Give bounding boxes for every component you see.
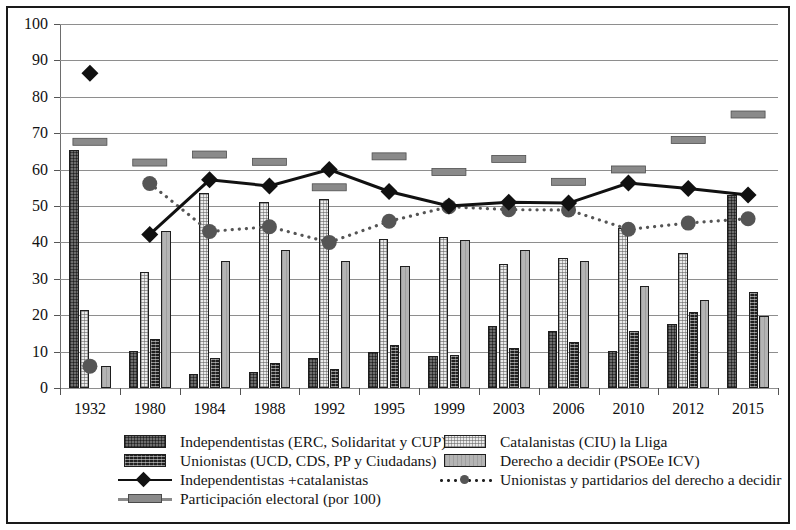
x-tick-mark: [359, 388, 360, 395]
legend-label: Participación electoral (por 100): [180, 491, 381, 507]
bar-indep-1980: [129, 351, 139, 388]
bar-decidir-2012: [700, 300, 710, 388]
x-tick-label-1995: 1995: [359, 400, 419, 418]
diamond-icon: [136, 471, 152, 487]
legend-swatch-independentistas: [124, 435, 166, 448]
x-tick-label-2015: 2015: [718, 400, 778, 418]
y-tick-label: 80: [2, 89, 48, 105]
legend-label: Catalanistas (CIU) la Lliga: [500, 434, 667, 450]
legend-label: Unionistas y partidarios del derecho a d…: [500, 472, 782, 488]
legend-item-left-2: Independentistas +catalanistas: [116, 470, 446, 489]
gridline: [60, 206, 778, 207]
x-tick-label-1984: 1984: [180, 400, 240, 418]
bar-catal-1984: [199, 193, 209, 388]
x-tick-label-2003: 2003: [479, 400, 539, 418]
y-tick-label: 100: [2, 16, 48, 32]
circle-icon: [460, 475, 469, 484]
x-tick-mark: [718, 388, 719, 395]
gridline: [60, 60, 778, 61]
bar-decidir-1980: [161, 231, 171, 388]
legend-column-left: Independentistas (ERC, Solidaritat y CUP…: [116, 432, 446, 508]
x-tick-mark: [299, 388, 300, 395]
x-tick-label-1999: 1999: [419, 400, 479, 418]
gridline: [60, 170, 778, 171]
bar-union-1988: [270, 363, 280, 388]
legend-bar-participacion: [128, 494, 162, 503]
bar-indep-1988: [249, 372, 259, 388]
bar-decidir-1995: [400, 266, 410, 388]
bar-indep-1995: [368, 352, 378, 388]
gridline: [60, 24, 778, 25]
x-tick-mark: [120, 388, 121, 395]
x-tick-mark: [240, 388, 241, 395]
bar-union-1980: [150, 339, 160, 388]
legend-swatch-derecho-a-decidir: [444, 454, 486, 467]
chart-legend: Independentistas (ERC, Solidaritat y CUP…: [6, 432, 790, 518]
legend-item-right-0: Catalanistas (CIU) la Lliga: [436, 432, 796, 451]
bar-indep-1984: [189, 374, 199, 388]
x-tick-mark: [539, 388, 540, 395]
y-tick-label: 10: [2, 344, 48, 360]
bar-union-2006: [569, 342, 579, 388]
bar-catal-1992: [319, 199, 329, 388]
legend-key: [116, 453, 174, 469]
gridline: [60, 97, 778, 98]
x-tick-label-1980: 1980: [120, 400, 180, 418]
legend-swatch-unionistas: [124, 454, 166, 467]
gridline: [60, 133, 778, 134]
legend-label: Independentistas (ERC, Solidaritat y CUP…: [180, 434, 446, 450]
x-tick-label-1932: 1932: [60, 400, 120, 418]
bar-catal-1932: [80, 310, 90, 388]
bar-catal-2012: [678, 253, 688, 388]
legend-item-left-1: Unionistas (UCD, CDS, PP y Ciudadans): [116, 451, 446, 470]
bar-indep-2006: [548, 331, 558, 388]
legend-item-left-0: Independentistas (ERC, Solidaritat y CUP…: [116, 432, 446, 451]
y-tick-label: 90: [2, 52, 48, 68]
bar-decidir-2006: [580, 261, 590, 388]
legend-key: [116, 491, 174, 507]
x-tick-mark: [599, 388, 600, 395]
legend-label: Independentistas +catalanistas: [180, 472, 368, 488]
bar-decidir-2015: [759, 316, 769, 388]
bar-indep-2015: [727, 195, 737, 388]
x-tick-mark: [180, 388, 181, 395]
bar-union-1995: [390, 345, 400, 388]
x-tick-mark: [479, 388, 480, 395]
chart-page: 0102030405060708090100 19321980198419881…: [0, 0, 796, 530]
legend-key: [116, 434, 174, 450]
bar-decidir-1999: [460, 240, 470, 389]
bar-indep-2012: [667, 324, 677, 388]
legend-label: Derecho a decidir (PSOEe ICV): [500, 453, 700, 469]
bar-indep-2010: [608, 351, 618, 388]
bar-catal-2010: [618, 228, 628, 388]
x-tick-mark: [60, 388, 61, 395]
bar-catal-1988: [259, 202, 269, 388]
bar-catal-2003: [499, 264, 509, 388]
x-tick-label-1992: 1992: [299, 400, 359, 418]
y-tick-label: 0: [2, 380, 48, 396]
x-tick-label-1988: 1988: [239, 400, 299, 418]
bar-union-2015: [749, 292, 759, 388]
bar-decidir-1992: [341, 261, 351, 388]
x-tick-mark: [419, 388, 420, 395]
legend-item-left-3: Participación electoral (por 100): [116, 489, 446, 508]
bar-union-1999: [450, 355, 460, 388]
legend-label: Unionistas (UCD, CDS, PP y Ciudadans): [180, 453, 436, 469]
legend-item-right-1: Derecho a decidir (PSOEe ICV): [436, 451, 796, 470]
bar-union-2010: [629, 331, 639, 388]
bar-catal-1980: [140, 272, 150, 388]
x-tick-mark: [658, 388, 659, 395]
plot-canvas: [60, 24, 778, 388]
bar-catal-1999: [439, 237, 449, 388]
legend-key: [116, 472, 174, 488]
bar-union-2003: [509, 348, 519, 388]
bar-indep-1932: [69, 150, 79, 388]
x-tick-mark: [778, 388, 779, 395]
legend-key: [436, 434, 494, 450]
bar-decidir-1984: [221, 261, 231, 388]
x-tick-label-2010: 2010: [598, 400, 658, 418]
bar-decidir-2010: [640, 286, 650, 388]
bar-indep-1992: [308, 358, 318, 388]
legend-key: [436, 453, 494, 469]
x-tick-label-2012: 2012: [658, 400, 718, 418]
